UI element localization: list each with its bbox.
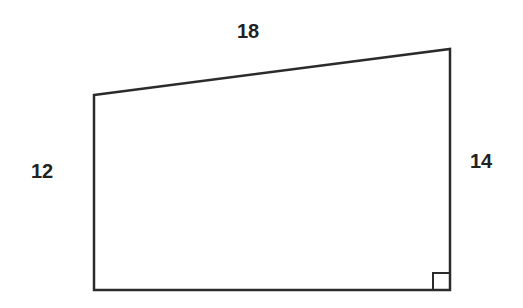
trapezoid-figure <box>0 0 523 308</box>
right-side-label: 14 <box>470 151 492 171</box>
left-side-label: 12 <box>31 161 53 181</box>
trapezoid-shape <box>94 49 450 290</box>
top-side-label: 18 <box>237 21 259 41</box>
right-angle-marker <box>433 273 450 290</box>
